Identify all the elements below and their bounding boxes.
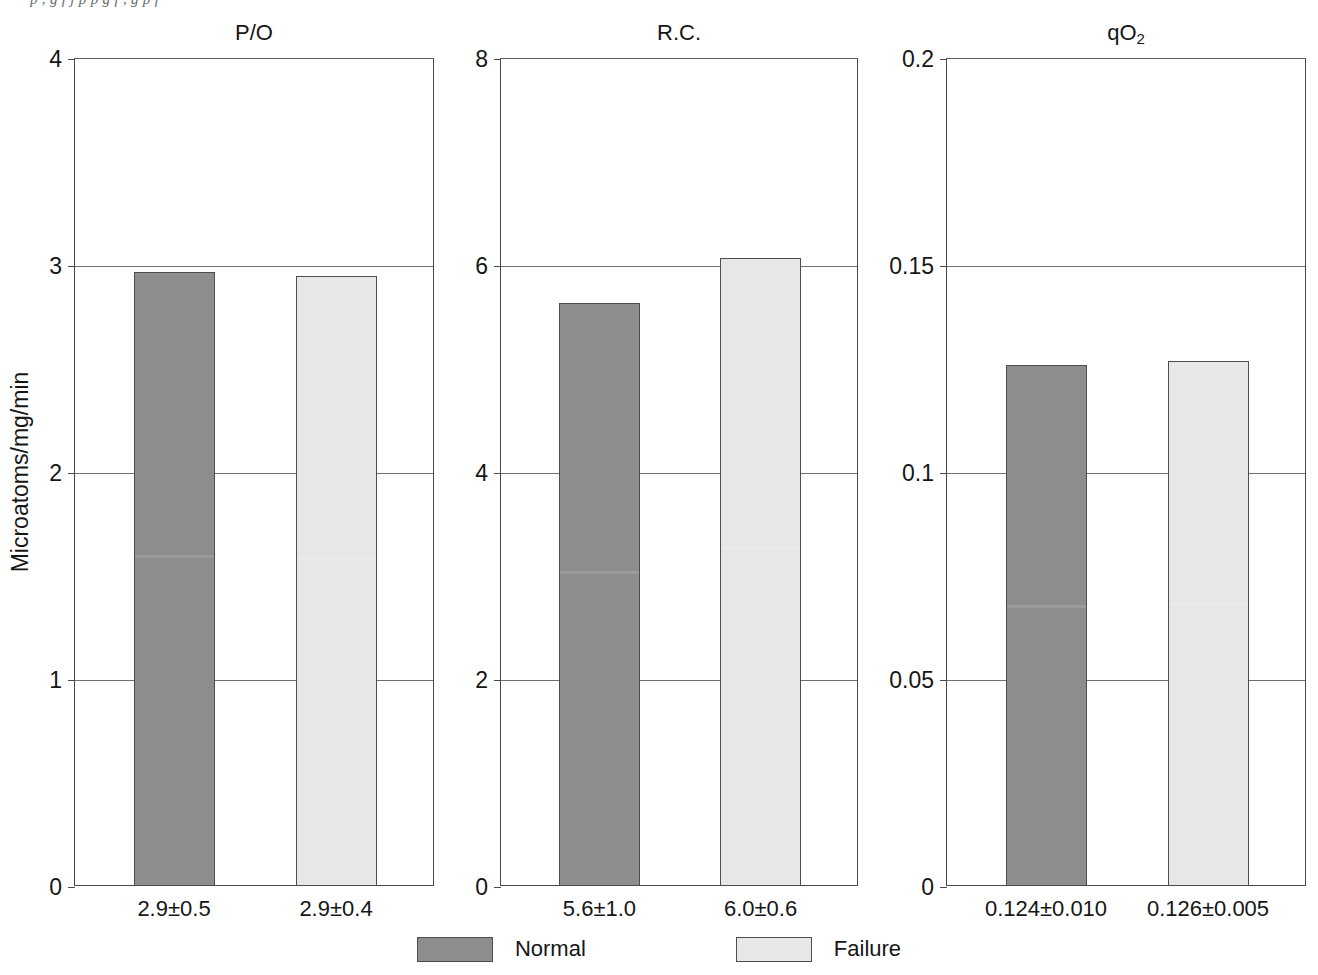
bar-rc-normal (559, 303, 640, 885)
legend-label-failure: Failure (834, 936, 901, 962)
gridline (947, 266, 1305, 267)
y-axis-tick (494, 887, 501, 888)
y-axis-tick-label: 0.05 (889, 667, 934, 694)
y-axis-tick-label: 0 (49, 874, 62, 901)
y-axis-tick-label: 0 (921, 874, 934, 901)
y-axis-tick (494, 680, 501, 681)
y-axis-tick (68, 887, 75, 888)
panel-qo2: qO200.050.10.150.20.124±0.0100.126±0.005 (946, 58, 1306, 886)
y-axis-tick-label: 0.2 (902, 46, 934, 73)
y-axis-tick (68, 680, 75, 681)
legend-label-normal: Normal (515, 936, 586, 962)
y-axis-tick (940, 59, 947, 60)
gridline (501, 266, 857, 267)
bar-po-normal (134, 272, 215, 885)
gridline (75, 473, 433, 474)
y-axis-tick-label: 4 (475, 460, 488, 487)
legend: NormalFailure (0, 936, 1318, 962)
plot-area-qo2: 00.050.10.150.20.124±0.0100.126±0.005 (946, 58, 1306, 886)
y-axis-tick-label: 1 (49, 667, 62, 694)
legend-item-failure: Failure (736, 936, 901, 962)
panel-title-qo2: qO2 (946, 20, 1306, 46)
y-axis-tick (68, 473, 75, 474)
bar-rc-failure (720, 258, 801, 885)
gridline (947, 473, 1305, 474)
y-axis-tick (940, 473, 947, 474)
panel-title-subscript: 2 (1137, 30, 1145, 47)
y-axis-tick (940, 887, 947, 888)
gridline (501, 680, 857, 681)
bar-po-failure (296, 276, 377, 885)
y-axis-tick-label: 0.15 (889, 253, 934, 280)
y-axis-tick-label: 2 (475, 667, 488, 694)
y-axis-tick (940, 680, 947, 681)
y-axis-tick-label: 2 (49, 460, 62, 487)
x-axis-value-label: 2.9±0.4 (299, 896, 372, 922)
gridline (75, 680, 433, 681)
gridline (75, 266, 433, 267)
y-axis-tick (68, 59, 75, 60)
y-axis-tick-label: 4 (49, 46, 62, 73)
y-axis-tick (940, 266, 947, 267)
y-axis-tick (494, 266, 501, 267)
figure-bar-charts: Microatoms/mg/min P/O012342.9±0.52.9±0.4… (0, 0, 1318, 975)
gridline (947, 680, 1305, 681)
x-axis-value-label: 5.6±1.0 (563, 896, 636, 922)
panel-po: P/O012342.9±0.52.9±0.4 (74, 58, 434, 886)
y-axis-label: Microatoms/mg/min (7, 312, 34, 632)
panel-title-text: R.C. (657, 20, 701, 45)
panel-rc: R.C.024685.6±1.06.0±0.6 (500, 58, 858, 886)
y-axis-tick (68, 266, 75, 267)
panel-title-po: P/O (74, 20, 434, 46)
plot-area-rc: 024685.6±1.06.0±0.6 (500, 58, 858, 886)
legend-swatch-failure (736, 937, 812, 962)
panel-title-text: qO (1107, 20, 1136, 45)
x-axis-value-label: 0.126±0.005 (1147, 896, 1269, 922)
legend-swatch-normal (417, 937, 493, 962)
plot-area-po: 012342.9±0.52.9±0.4 (74, 58, 434, 886)
panel-title-rc: R.C. (500, 20, 858, 46)
panel-title-text: P/O (235, 20, 273, 45)
gridline (501, 473, 857, 474)
legend-item-normal: Normal (417, 936, 586, 962)
x-axis-value-label: 6.0±0.6 (724, 896, 797, 922)
x-axis-value-label: 0.124±0.010 (985, 896, 1107, 922)
y-axis-tick (494, 473, 501, 474)
bar-qo2-failure (1168, 361, 1249, 885)
y-axis-tick-label: 0 (475, 874, 488, 901)
y-axis-tick-label: 3 (49, 253, 62, 280)
x-axis-value-label: 2.9±0.5 (137, 896, 210, 922)
bar-qo2-normal (1006, 365, 1087, 885)
y-axis-tick-label: 6 (475, 253, 488, 280)
y-axis-tick (494, 59, 501, 60)
y-axis-tick-label: 8 (475, 46, 488, 73)
y-axis-tick-label: 0.1 (902, 460, 934, 487)
